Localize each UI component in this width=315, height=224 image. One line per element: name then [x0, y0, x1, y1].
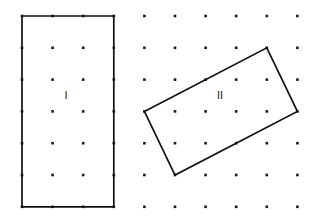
grid-dot [235, 78, 238, 81]
grid-dot [82, 142, 85, 145]
grid-dot [235, 47, 238, 50]
figure-canvas: III [0, 0, 315, 224]
grid-dot [296, 142, 299, 145]
grid-dot [51, 142, 54, 145]
grid-dot [204, 110, 207, 113]
grid-dot [296, 174, 299, 177]
rectangle-one [22, 16, 114, 207]
grid-dot [204, 142, 207, 145]
shapes-layer [22, 16, 297, 207]
grid-dot [143, 142, 146, 145]
grid-dot [51, 47, 54, 50]
grid-dot [266, 142, 269, 145]
grid-dot [51, 110, 54, 113]
grid-dot [235, 15, 238, 18]
dot-grid-layer [21, 15, 299, 208]
shape-labels-layer: III [64, 89, 223, 101]
geometry-figure-svg: III [0, 0, 315, 224]
grid-dot [51, 78, 54, 81]
grid-dot [296, 47, 299, 50]
grid-dot [174, 142, 177, 145]
grid-dot [143, 15, 146, 18]
grid-dot [143, 174, 146, 177]
grid-dot [235, 206, 238, 209]
grid-dot [296, 15, 299, 18]
grid-dot [296, 78, 299, 81]
grid-dot [82, 174, 85, 177]
grid-dot [266, 15, 269, 18]
grid-dot [235, 110, 238, 113]
grid-dot [204, 174, 207, 177]
grid-dot [204, 47, 207, 50]
rectangle-two-label: II [217, 89, 223, 101]
grid-dot [174, 78, 177, 81]
grid-dot [266, 206, 269, 209]
grid-dot [174, 47, 177, 50]
rectangle-one-label: I [64, 89, 67, 101]
grid-dot [266, 174, 269, 177]
grid-dot [266, 78, 269, 81]
rectangle-two [144, 48, 297, 175]
grid-dot [82, 78, 85, 81]
grid-dot [204, 206, 207, 209]
grid-dot [174, 206, 177, 209]
grid-dot [143, 206, 146, 209]
grid-dot [235, 174, 238, 177]
grid-dot [204, 15, 207, 18]
grid-dot [143, 47, 146, 50]
grid-dot [174, 15, 177, 18]
grid-dot [82, 47, 85, 50]
grid-dot [51, 174, 54, 177]
grid-dot [266, 110, 269, 113]
grid-dot [143, 78, 146, 81]
grid-dot [174, 110, 177, 113]
grid-dot [296, 206, 299, 209]
grid-dot [82, 110, 85, 113]
